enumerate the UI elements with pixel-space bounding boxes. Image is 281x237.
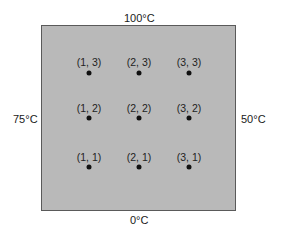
bottom-boundary-temperature: 0°C [130,214,148,226]
node-label: (2, 1) [127,151,152,163]
grid-node [187,165,192,170]
node-label: (1, 1) [77,151,102,163]
node-label: (3, 2) [177,102,202,114]
grid-node [187,71,192,76]
node-label: (2, 3) [127,56,152,68]
grid-node [187,116,192,121]
node-label: (1, 3) [77,56,102,68]
node-label: (3, 1) [177,151,202,163]
node-label: (1, 2) [77,102,102,114]
node-label: (2, 2) [127,102,152,114]
grid-node [137,165,142,170]
top-boundary-temperature: 100°C [124,12,155,24]
grid-node [87,165,92,170]
grid-node [87,71,92,76]
right-boundary-temperature: 50°C [241,113,266,125]
node-label: (3, 3) [177,56,202,68]
grid-node [137,71,142,76]
grid-node [137,116,142,121]
left-boundary-temperature: 75°C [13,113,38,125]
grid-node [87,116,92,121]
